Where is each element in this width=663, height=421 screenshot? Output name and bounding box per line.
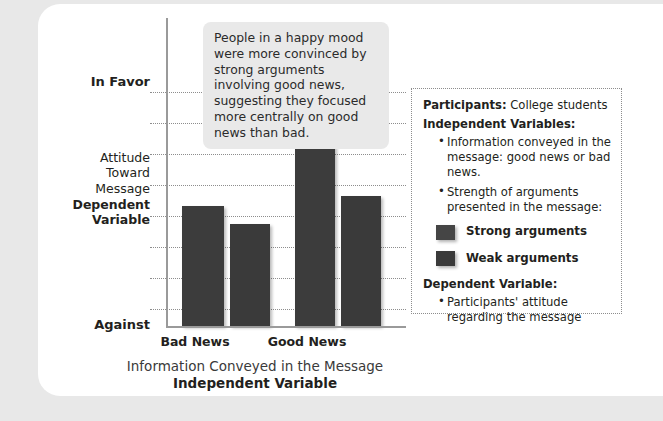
x-axis-subtitle: Independent Variable bbox=[90, 375, 420, 391]
legend-item-strong: Strong arguments bbox=[423, 224, 611, 239]
participants-line: Participants: College students bbox=[423, 98, 611, 113]
legend: Strong arguments Weak arguments bbox=[423, 224, 611, 266]
x-axis-line bbox=[166, 326, 406, 328]
bar-good-news-strong bbox=[295, 140, 335, 326]
participants-label: Participants: bbox=[423, 98, 507, 112]
dependent-variable-heading: Dependent Variable: bbox=[423, 277, 611, 292]
y-axis-middle-line3: Message bbox=[20, 181, 150, 196]
y-axis-dependent-line1: Dependent bbox=[20, 197, 150, 212]
gridline bbox=[150, 185, 406, 186]
y-axis-dependent-line2: Variable bbox=[20, 212, 150, 227]
y-axis-line bbox=[166, 18, 168, 328]
x-axis-title: Information Conveyed in the Message bbox=[90, 358, 420, 374]
x-axis-category-bad-news: Bad News bbox=[140, 334, 250, 349]
bar-good-news-weak bbox=[341, 196, 381, 326]
list-item: Information conveyed in the message: goo… bbox=[438, 135, 611, 180]
legend-swatch-strong-icon bbox=[436, 225, 455, 240]
bar-bad-news-weak bbox=[230, 224, 270, 326]
independent-variables-heading: Independent Variables: bbox=[423, 117, 611, 132]
gridline bbox=[150, 154, 406, 155]
y-axis-top-label: In Favor bbox=[20, 74, 150, 90]
independent-variables-list: Information conveyed in the message: goo… bbox=[423, 135, 611, 215]
y-axis-middle-label: Attitude Toward Message bbox=[20, 150, 150, 196]
participants-value: College students bbox=[510, 98, 607, 112]
y-axis-dependent-label: Dependent Variable bbox=[20, 197, 150, 228]
study-info-box: Participants: College students Independe… bbox=[411, 88, 622, 314]
list-item: Strength of arguments presented in the m… bbox=[438, 185, 611, 215]
legend-label-strong: Strong arguments bbox=[466, 224, 587, 239]
y-axis-middle-line1: Attitude bbox=[20, 150, 150, 165]
bar-bad-news-strong bbox=[182, 206, 224, 326]
legend-label-weak: Weak arguments bbox=[466, 251, 578, 266]
x-axis-category-good-news: Good News bbox=[252, 334, 362, 349]
list-item: Participants' attitude regarding the mes… bbox=[438, 295, 611, 325]
legend-item-weak: Weak arguments bbox=[423, 251, 611, 266]
callout-box: People in a happy mood were more convinc… bbox=[203, 22, 389, 149]
dependent-variable-list: Participants' attitude regarding the mes… bbox=[423, 295, 611, 325]
y-axis-bottom-label: Against bbox=[20, 317, 150, 333]
legend-swatch-weak-icon bbox=[436, 251, 455, 266]
y-axis-middle-line2: Toward bbox=[20, 165, 150, 180]
